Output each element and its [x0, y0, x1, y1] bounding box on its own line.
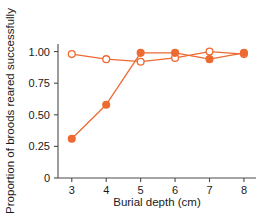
x-axis-title: Burial depth (cm) [113, 196, 201, 208]
data-point-filled [206, 56, 213, 63]
data-point-filled [68, 135, 75, 142]
series-filled-circles [68, 49, 247, 142]
data-point-open [68, 51, 75, 58]
x-tick-label: 3 [69, 184, 75, 196]
data-series-layer [68, 48, 247, 142]
data-point-filled [137, 49, 144, 56]
x-tick-label: 7 [206, 184, 212, 196]
x-tick-label: 4 [103, 184, 109, 196]
axes-group [58, 44, 256, 178]
y-tick-label: 0 [44, 172, 50, 184]
data-point-filled [103, 101, 110, 108]
x-axis-ticks: 345678 [69, 178, 247, 196]
y-axis-ticks: 00.250.500.751.00 [29, 46, 58, 184]
y-tick-label: 0.75 [29, 77, 50, 89]
data-point-filled [241, 49, 248, 56]
data-point-open [137, 58, 144, 65]
x-tick-label: 5 [138, 184, 144, 196]
data-point-filled [172, 49, 179, 56]
y-tick-label: 0.25 [29, 140, 50, 152]
x-tick-label: 8 [241, 184, 247, 196]
y-axis-title: Proportion of broods reared successfully [4, 8, 16, 214]
chart-figure: 00.250.500.751.00 345678 Burial depth (c… [0, 0, 264, 221]
chart-plot-area: 00.250.500.751.00 345678 Burial depth (c… [0, 0, 264, 221]
series-line [72, 53, 244, 139]
y-tick-label: 1.00 [29, 46, 50, 58]
data-point-open [103, 56, 110, 63]
y-tick-label: 0.50 [29, 109, 50, 121]
x-tick-label: 6 [172, 184, 178, 196]
data-point-open [206, 48, 213, 55]
